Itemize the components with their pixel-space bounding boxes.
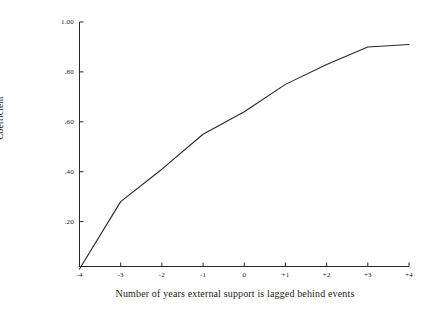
y-tick-label: 1.00 <box>40 18 74 26</box>
y-tick-label: .20 <box>40 218 74 226</box>
y-axis-ticks <box>80 22 84 222</box>
y-tick-label: .80 <box>40 68 74 76</box>
x-tick-label: 0 <box>242 271 246 279</box>
x-tick-label: +1 <box>282 271 290 279</box>
x-tick-label: -4 <box>76 271 82 279</box>
x-tick-label: +3 <box>364 271 372 279</box>
y-tick-label: .40 <box>40 168 74 176</box>
line-chart-plot <box>0 0 424 310</box>
chart-figure: Correlation Coefficient Number of years … <box>0 0 424 310</box>
x-tick-label: -3 <box>118 271 124 279</box>
x-tick-label: -2 <box>159 271 165 279</box>
x-axis-ticks <box>80 263 410 267</box>
x-tick-label: +4 <box>405 271 413 279</box>
y-tick-label: .60 <box>40 118 74 126</box>
chart-axes <box>80 22 410 267</box>
x-tick-label: +2 <box>323 271 331 279</box>
data-series-line <box>80 44 410 269</box>
x-tick-label: -1 <box>200 271 206 279</box>
x-axis-title: Number of years external support is lagg… <box>60 288 410 299</box>
